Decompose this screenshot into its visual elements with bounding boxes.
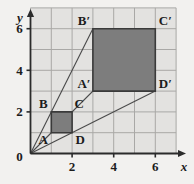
x-tick-label: 6 bbox=[152, 159, 159, 174]
x-axis-label: x bbox=[180, 159, 188, 174]
y-tick-label: 2 bbox=[16, 104, 23, 119]
preimage-square-ABCD bbox=[51, 112, 72, 133]
vertex-label-bp: B′ bbox=[78, 13, 90, 28]
vertex-label-a: A bbox=[39, 132, 49, 147]
x-tick-label: 2 bbox=[69, 159, 76, 174]
vertex-label-dp: D′ bbox=[159, 76, 172, 91]
y-tick-label: 4 bbox=[16, 63, 23, 78]
x-tick-label: 4 bbox=[110, 159, 117, 174]
dilation-figure: 246246xy0ABCDA′B′C′D′ bbox=[0, 0, 194, 184]
origin-label: 0 bbox=[16, 149, 23, 164]
coordinate-plane: 246246xy0ABCDA′B′C′D′ bbox=[0, 0, 194, 184]
vertex-label-ap: A′ bbox=[77, 76, 90, 91]
vertex-label-cp: C′ bbox=[159, 13, 172, 28]
y-axis-label: y bbox=[15, 10, 23, 25]
image-square-ApBpCpDp bbox=[93, 29, 155, 91]
vertex-label-b: B bbox=[39, 96, 48, 111]
x-axis-arrowhead bbox=[178, 150, 186, 157]
vertex-label-d: D bbox=[75, 132, 84, 147]
vertex-label-c: C bbox=[74, 96, 83, 111]
